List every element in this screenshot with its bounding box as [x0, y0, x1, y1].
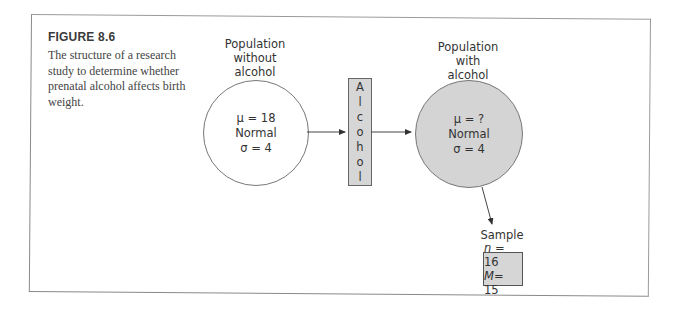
arrow-to-sample-icon	[482, 187, 492, 224]
arrows	[0, 0, 679, 309]
